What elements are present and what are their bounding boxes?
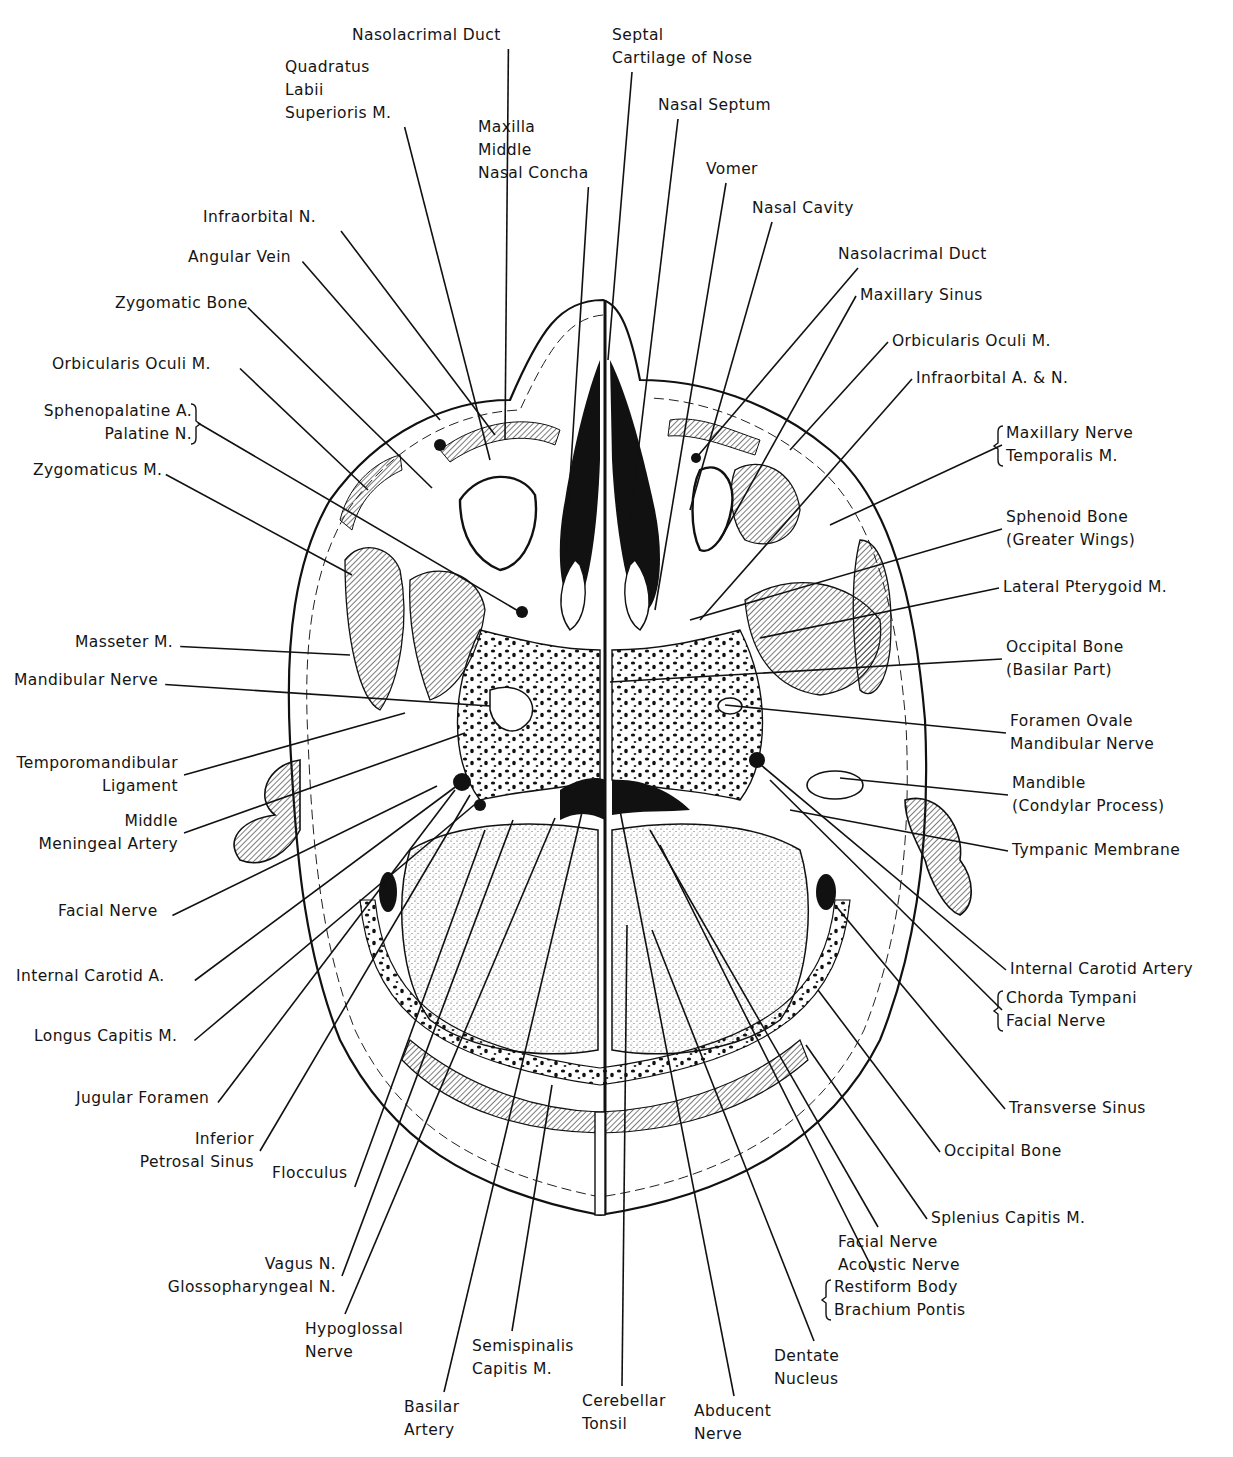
leader-orbicularis-oculi-left [240, 369, 368, 491]
label-nasolacrimal-duct-left: Nasolacrimal Duct [352, 24, 501, 47]
label-line: Nerve [694, 1423, 771, 1446]
leader-mandible-condylar [840, 778, 1008, 795]
label-line: Meningeal Artery [38, 833, 178, 856]
leader-nasal-septum [630, 119, 678, 520]
label-angular-vein: Angular Vein [188, 246, 291, 269]
leader-orbicularis-oculi-right [790, 342, 888, 450]
label-line: Quadratus [285, 56, 391, 79]
label-line: Hypoglossal [305, 1318, 403, 1341]
label-line: Zygomatic Bone [115, 292, 248, 315]
label-line: Basilar [404, 1396, 460, 1419]
label-line: Facial Nerve [1006, 1010, 1137, 1033]
label-masseter: Masseter M. [75, 631, 173, 654]
label-line: Occipital Bone [1006, 636, 1124, 659]
label-line: Petrosal Sinus [140, 1151, 254, 1174]
label-line: Maxillary Nerve [1006, 422, 1133, 445]
label-line: Occipital Bone [944, 1140, 1062, 1163]
label-flocculus: Flocculus [272, 1162, 347, 1185]
label-line: Infraorbital N. [203, 206, 316, 229]
label-dentate-nucleus: DentateNucleus [774, 1345, 839, 1391]
label-chorda-tympani-facial: Chorda TympaniFacial Nerve [1006, 987, 1137, 1033]
label-nasolacrimal-duct-right: Nasolacrimal Duct [838, 243, 987, 266]
label-line: (Basilar Part) [1006, 659, 1124, 682]
label-line: Palatine N. [44, 423, 192, 446]
label-line: Temporomandibular [16, 752, 178, 775]
label-line: Temporalis M. [1006, 445, 1133, 468]
label-facial-nerve-left: Facial Nerve [58, 900, 158, 923]
leader-lateral-pterygoid [760, 588, 999, 638]
label-middle-meningeal-artery: MiddleMeningeal Artery [38, 810, 178, 856]
label-abducent-nerve: AbducentNerve [694, 1400, 771, 1446]
label-line: Vagus N. [168, 1253, 336, 1276]
label-line: Jugular Foramen [76, 1087, 209, 1110]
label-foramen-ovale: Foramen OvaleMandibular Nerve [1010, 710, 1154, 756]
label-line: Zygomaticus M. [33, 459, 162, 482]
label-line: Cartilage of Nose [612, 47, 753, 70]
label-line: Septal [612, 24, 753, 47]
label-maxillary-sinus: Maxillary Sinus [860, 284, 983, 307]
anatomy-figure: Nasolacrimal DuctQuadratusLabiiSuperiori… [0, 0, 1233, 1457]
label-line: Abducent [694, 1400, 771, 1423]
label-occipital-bone: Occipital Bone [944, 1140, 1062, 1163]
label-line: Nasal Cavity [752, 197, 854, 220]
label-line: Nasolacrimal Duct [352, 24, 501, 47]
label-nasal-septum: Nasal Septum [658, 94, 771, 117]
label-line: Orbicularis Oculi M. [52, 353, 211, 376]
label-line: Brachium Pontis [834, 1299, 966, 1322]
label-line: Orbicularis Oculi M. [892, 330, 1051, 353]
label-septal-cartilage: SeptalCartilage of Nose [612, 24, 753, 70]
label-line: Transverse Sinus [1009, 1097, 1146, 1120]
label-internal-carotid-artery-right: Internal Carotid Artery [1010, 958, 1193, 981]
label-line: Acoustic Nerve [838, 1254, 960, 1277]
label-line: Splenius Capitis M. [931, 1207, 1085, 1230]
label-line: Foramen Ovale [1010, 710, 1154, 733]
label-line: Sphenoid Bone [1006, 506, 1135, 529]
label-zygomaticus: Zygomaticus M. [33, 459, 162, 482]
leader-cerebellar-tonsil [622, 925, 627, 1386]
label-line: Maxilla [478, 116, 589, 139]
leader-masseter [180, 647, 350, 656]
label-lateral-pterygoid: Lateral Pterygoid M. [1003, 576, 1167, 599]
label-line: Capitis M. [472, 1358, 574, 1381]
label-line: Semispinalis [472, 1335, 574, 1358]
leader-chorda-tympani-facial [770, 780, 1002, 1010]
label-line: Lateral Pterygoid M. [1003, 576, 1167, 599]
leader-basilar-artery [444, 808, 583, 1392]
leader-nasolacrimal-duct-left [505, 49, 508, 440]
label-line: Facial Nerve [58, 900, 158, 923]
leader-occipital-bone [818, 990, 940, 1152]
label-line: Internal Carotid Artery [1010, 958, 1193, 981]
label-longus-capitis: Longus Capitis M. [34, 1025, 177, 1048]
label-orbicularis-oculi-left: Orbicularis Oculi M. [52, 353, 211, 376]
label-line: (Condylar Process) [1012, 795, 1164, 818]
label-zygomatic-bone: Zygomatic Bone [115, 292, 248, 315]
label-occipital-bone-basilar: Occipital Bone(Basilar Part) [1006, 636, 1124, 682]
label-basilar-artery: BasilarArtery [404, 1396, 460, 1442]
brace-chorda-tympani-facial [994, 991, 1003, 1031]
label-transverse-sinus: Transverse Sinus [1009, 1097, 1146, 1120]
label-line: Angular Vein [188, 246, 291, 269]
leader-nasolacrimal-duct-right [696, 268, 858, 458]
label-line: Tonsil [582, 1413, 666, 1436]
leader-occipital-bone-basilar [610, 659, 1002, 682]
label-line: Middle [478, 139, 589, 162]
label-line: Flocculus [272, 1162, 347, 1185]
label-line: Glossopharyngeal N. [168, 1276, 336, 1299]
label-quadratus-labii-superioris: QuadratusLabiiSuperioris M. [285, 56, 391, 125]
leader-jugular-foramen [218, 790, 455, 1103]
label-line: (Greater Wings) [1006, 529, 1135, 552]
leader-maxillary-nerve-temporalis [830, 445, 1002, 525]
label-line: Nucleus [774, 1368, 839, 1391]
label-internal-carotid-a-left: Internal Carotid A. [16, 965, 165, 988]
label-line: Maxillary Sinus [860, 284, 983, 307]
label-line: Inferior [140, 1128, 254, 1151]
label-line: Nerve [305, 1341, 403, 1364]
label-line: Tympanic Membrane [1012, 839, 1180, 862]
label-line: Labii [285, 79, 391, 102]
label-sphenoid-bone: Sphenoid Bone(Greater Wings) [1006, 506, 1135, 552]
leader-semispinalis-capitis [512, 1085, 552, 1331]
label-hypoglossal-nerve: HypoglossalNerve [305, 1318, 403, 1364]
label-line: Ligament [16, 775, 178, 798]
label-line: Chorda Tympani [1006, 987, 1137, 1010]
label-maxillary-nerve-temporalis: Maxillary NerveTemporalis M. [1006, 422, 1133, 468]
